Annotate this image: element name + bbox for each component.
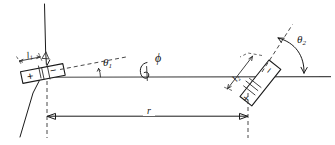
theta1-reference-line <box>60 57 126 70</box>
theta2-label: θ2 <box>297 34 306 47</box>
intermolecular-axis <box>36 77 331 78</box>
dipole1-bond-vertical <box>45 4 47 65</box>
dipole-interaction-figure: θ1 θ2 ϕ r l1 l2 + − + − <box>0 0 335 145</box>
phi-torsion-curl <box>140 63 148 81</box>
phi-label: ϕ <box>155 52 161 64</box>
theta1-label: θ1 <box>103 57 112 70</box>
theta2-subscript: 2 <box>302 39 306 47</box>
theta1-arc <box>97 69 100 77</box>
theta1-subscript: 1 <box>108 62 112 70</box>
r-label: r <box>143 106 155 116</box>
